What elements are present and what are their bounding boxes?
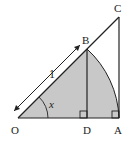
label-D: D <box>83 124 91 136</box>
label-B: B <box>82 34 89 46</box>
label-A: A <box>114 124 122 136</box>
label-C: C <box>114 2 121 14</box>
trig-diagram: 1 x O D A B C <box>0 0 128 141</box>
angle-label: x <box>48 98 54 110</box>
label-O: O <box>11 124 19 136</box>
shaded-sector <box>18 49 119 118</box>
length-label: 1 <box>49 67 55 81</box>
